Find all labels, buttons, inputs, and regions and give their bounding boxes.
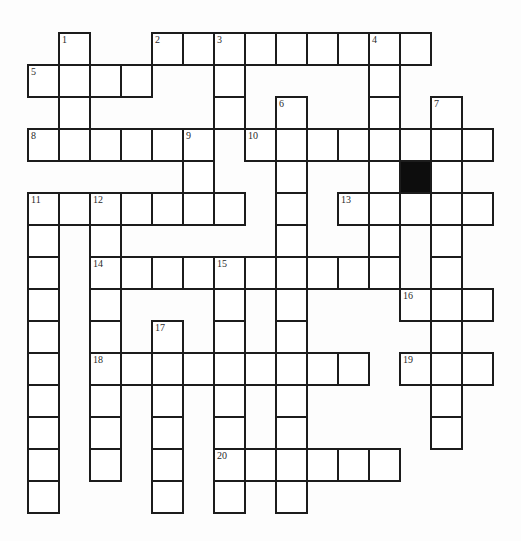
crossword-cell-r10-c13[interactable] bbox=[430, 352, 463, 386]
crossword-cell-r5-c11[interactable] bbox=[368, 192, 401, 226]
letter-input[interactable] bbox=[277, 98, 306, 128]
letter-input[interactable] bbox=[91, 354, 120, 384]
crossword-cell-r0-c8[interactable] bbox=[275, 32, 308, 66]
letter-input[interactable] bbox=[308, 450, 337, 480]
crossword-cell-r14-c6[interactable] bbox=[213, 480, 246, 514]
letter-input[interactable] bbox=[29, 290, 58, 320]
crossword-cell-r7-c9[interactable] bbox=[306, 256, 339, 290]
crossword-cell-r7-c4[interactable] bbox=[151, 256, 184, 290]
crossword-cell-r5-c8[interactable] bbox=[275, 192, 308, 226]
crossword-cell-r7-c13[interactable] bbox=[430, 256, 463, 290]
crossword-cell-r3-c12[interactable] bbox=[399, 128, 432, 162]
letter-input[interactable] bbox=[215, 34, 244, 64]
letter-input[interactable] bbox=[91, 194, 120, 224]
crossword-cell-r9-c0[interactable] bbox=[27, 320, 60, 354]
letter-input[interactable] bbox=[432, 98, 461, 128]
crossword-cell-r6-c11[interactable] bbox=[368, 224, 401, 258]
crossword-cell-r4-c5[interactable] bbox=[182, 160, 215, 194]
crossword-cell-r7-c7[interactable] bbox=[244, 256, 277, 290]
crossword-cell-r3-c7[interactable]: 10 bbox=[244, 128, 277, 162]
letter-input[interactable] bbox=[91, 226, 120, 256]
letter-input[interactable] bbox=[463, 290, 492, 320]
crossword-cell-r10-c8[interactable] bbox=[275, 352, 308, 386]
letter-input[interactable] bbox=[432, 418, 461, 448]
crossword-cell-r6-c13[interactable] bbox=[430, 224, 463, 258]
letter-input[interactable] bbox=[432, 354, 461, 384]
crossword-cell-r3-c11[interactable] bbox=[368, 128, 401, 162]
crossword-cell-r0-c6[interactable]: 3 bbox=[213, 32, 246, 66]
crossword-cell-r0-c9[interactable] bbox=[306, 32, 339, 66]
crossword-cell-r13-c11[interactable] bbox=[368, 448, 401, 482]
letter-input[interactable] bbox=[339, 130, 368, 160]
letter-input[interactable] bbox=[184, 130, 213, 160]
crossword-cell-r14-c4[interactable] bbox=[151, 480, 184, 514]
crossword-cell-r5-c3[interactable] bbox=[120, 192, 153, 226]
crossword-cell-r3-c8[interactable] bbox=[275, 128, 308, 162]
letter-input[interactable] bbox=[29, 482, 58, 512]
letter-input[interactable] bbox=[463, 130, 492, 160]
crossword-cell-r1-c11[interactable] bbox=[368, 64, 401, 98]
crossword-cell-r8-c2[interactable] bbox=[89, 288, 122, 322]
crossword-cell-r8-c12[interactable]: 16 bbox=[399, 288, 432, 322]
letter-input[interactable] bbox=[432, 194, 461, 224]
letter-input[interactable] bbox=[29, 450, 58, 480]
crossword-cell-r11-c8[interactable] bbox=[275, 384, 308, 418]
crossword-cell-r0-c1[interactable]: 1 bbox=[58, 32, 91, 66]
crossword-cell-r5-c14[interactable] bbox=[461, 192, 494, 226]
crossword-cell-r5-c0[interactable]: 11 bbox=[27, 192, 60, 226]
letter-input[interactable] bbox=[153, 354, 182, 384]
letter-input[interactable] bbox=[122, 258, 151, 288]
letter-input[interactable] bbox=[153, 450, 182, 480]
letter-input[interactable] bbox=[122, 130, 151, 160]
letter-input[interactable] bbox=[246, 258, 275, 288]
crossword-cell-r4-c8[interactable] bbox=[275, 160, 308, 194]
letter-input[interactable] bbox=[60, 130, 89, 160]
letter-input[interactable] bbox=[277, 322, 306, 352]
crossword-cell-r7-c6[interactable]: 15 bbox=[213, 256, 246, 290]
crossword-cell-r0-c4[interactable]: 2 bbox=[151, 32, 184, 66]
letter-input[interactable] bbox=[153, 386, 182, 416]
letter-input[interactable] bbox=[60, 194, 89, 224]
crossword-cell-r10-c12[interactable]: 19 bbox=[399, 352, 432, 386]
letter-input[interactable] bbox=[215, 418, 244, 448]
crossword-cell-r10-c5[interactable] bbox=[182, 352, 215, 386]
crossword-cell-r1-c0[interactable]: 5 bbox=[27, 64, 60, 98]
crossword-cell-r5-c4[interactable] bbox=[151, 192, 184, 226]
crossword-cell-r13-c7[interactable] bbox=[244, 448, 277, 482]
letter-input[interactable] bbox=[91, 322, 120, 352]
letter-input[interactable] bbox=[91, 130, 120, 160]
crossword-cell-r5-c1[interactable] bbox=[58, 192, 91, 226]
letter-input[interactable] bbox=[432, 130, 461, 160]
crossword-cell-r0-c12[interactable] bbox=[399, 32, 432, 66]
crossword-cell-r3-c0[interactable]: 8 bbox=[27, 128, 60, 162]
crossword-cell-r13-c9[interactable] bbox=[306, 448, 339, 482]
crossword-cell-r10-c7[interactable] bbox=[244, 352, 277, 386]
letter-input[interactable] bbox=[277, 418, 306, 448]
letter-input[interactable] bbox=[277, 130, 306, 160]
letter-input[interactable] bbox=[277, 226, 306, 256]
crossword-cell-r6-c2[interactable] bbox=[89, 224, 122, 258]
crossword-cell-r2-c13[interactable]: 7 bbox=[430, 96, 463, 130]
crossword-cell-r0-c7[interactable] bbox=[244, 32, 277, 66]
letter-input[interactable] bbox=[401, 354, 430, 384]
crossword-cell-r8-c8[interactable] bbox=[275, 288, 308, 322]
letter-input[interactable] bbox=[246, 34, 275, 64]
letter-input[interactable] bbox=[60, 34, 89, 64]
letter-input[interactable] bbox=[215, 322, 244, 352]
crossword-cell-r12-c6[interactable] bbox=[213, 416, 246, 450]
letter-input[interactable] bbox=[91, 66, 120, 96]
letter-input[interactable] bbox=[401, 194, 430, 224]
letter-input[interactable] bbox=[370, 66, 399, 96]
crossword-cell-r3-c10[interactable] bbox=[337, 128, 370, 162]
crossword-cell-r10-c6[interactable] bbox=[213, 352, 246, 386]
letter-input[interactable] bbox=[153, 418, 182, 448]
letter-input[interactable] bbox=[215, 98, 244, 128]
letter-input[interactable] bbox=[308, 34, 337, 64]
crossword-cell-r0-c10[interactable] bbox=[337, 32, 370, 66]
letter-input[interactable] bbox=[277, 34, 306, 64]
letter-input[interactable] bbox=[401, 130, 430, 160]
crossword-cell-r11-c2[interactable] bbox=[89, 384, 122, 418]
letter-input[interactable] bbox=[215, 258, 244, 288]
letter-input[interactable] bbox=[401, 34, 430, 64]
letter-input[interactable] bbox=[29, 130, 58, 160]
